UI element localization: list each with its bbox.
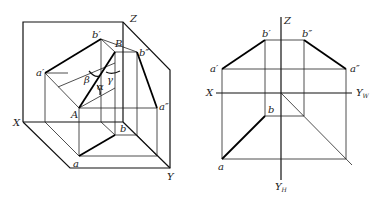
label-b-dprime: b″: [139, 48, 149, 58]
label-a: a: [73, 159, 79, 169]
label-yw: YW: [356, 88, 369, 99]
45-degree-line: [281, 93, 352, 165]
label-yh: YH: [275, 182, 287, 193]
label-a-prime: a′: [36, 68, 44, 78]
label-b-prime: b′: [262, 29, 271, 39]
label-A: A: [71, 110, 78, 120]
projection-figure: Z b′ B b″ a′ β α γ a″ A X b a Y Z b′ b″ …: [0, 0, 376, 199]
label-y: Y: [167, 172, 174, 182]
label-z: Z: [130, 14, 137, 24]
label-x: X: [13, 118, 20, 128]
label-b-dprime: b″: [302, 29, 312, 39]
projection-ab: [222, 116, 265, 159]
label-a-dprime: a″: [159, 102, 169, 112]
label-a-prime: a′: [210, 64, 218, 74]
label-z: Z: [284, 16, 291, 26]
projection-b-dprime-a-dprime: [304, 40, 346, 69]
label-b-prime: b′: [92, 30, 101, 40]
label-a-dprime: a″: [350, 64, 360, 74]
label-x: X: [206, 88, 213, 98]
orthographic-diagram: [0, 0, 376, 199]
label-alpha: α: [97, 82, 104, 92]
label-beta: β: [84, 75, 90, 85]
label-B: B: [115, 39, 122, 49]
label-b: b: [120, 124, 126, 134]
label-a: a: [218, 162, 224, 172]
label-b: b: [268, 105, 274, 115]
label-gamma: γ: [107, 75, 113, 85]
projection-a-prime-b-prime: [222, 40, 265, 69]
